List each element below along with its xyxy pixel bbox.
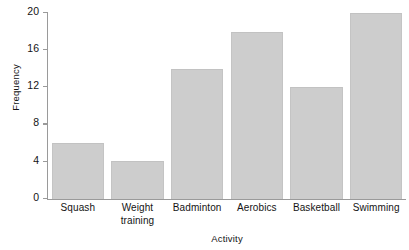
bar-slot (290, 13, 342, 199)
plot-area: 048121620 (48, 13, 406, 199)
bar-slot (52, 13, 104, 199)
bar-slot (171, 13, 223, 199)
y-axis-tick-label: 12 (11, 79, 39, 92)
y-axis-tick-label: 8 (11, 116, 39, 129)
x-axis-category-label-line: Aerobics (227, 202, 287, 215)
x-axis-category-label: Aerobics (227, 202, 287, 215)
y-axis-tick-label: 20 (11, 5, 39, 18)
x-axis-category-label: Badminton (167, 202, 227, 215)
x-axis-category-label-line: training (108, 215, 168, 228)
x-axis-category-label-line: Basketball (287, 202, 347, 215)
bar (231, 32, 283, 199)
bar (290, 87, 342, 199)
bar-slot (111, 13, 163, 199)
bar (52, 143, 104, 199)
y-axis-tick-label: 0 (11, 191, 39, 204)
x-axis-category-label-line: Weight (108, 202, 168, 215)
bar-slot (350, 13, 402, 199)
x-axis-category-label: Basketball (287, 202, 347, 215)
x-axis-category-label: Swimming (346, 202, 406, 215)
x-axis-category-label: Weighttraining (108, 202, 168, 227)
bar (350, 13, 402, 199)
x-axis-category-label: Squash (48, 202, 108, 215)
x-axis-category-labels: SquashWeighttrainingBadmintonAerobicsBas… (48, 202, 406, 230)
x-axis-title: Activity (48, 233, 406, 244)
x-axis-category-label-line: Badminton (167, 202, 227, 215)
y-axis-tick-label: 4 (11, 154, 39, 167)
bar (171, 69, 223, 199)
x-axis-category-label-line: Squash (48, 202, 108, 215)
bar-slot (231, 13, 283, 199)
y-axis-tick-label: 16 (11, 42, 39, 55)
bar (111, 161, 163, 199)
bar-series (48, 13, 406, 199)
bar-chart-figure: Frequency 048121620 SquashWeighttraining… (0, 0, 409, 250)
x-axis-category-label-line: Swimming (346, 202, 406, 215)
